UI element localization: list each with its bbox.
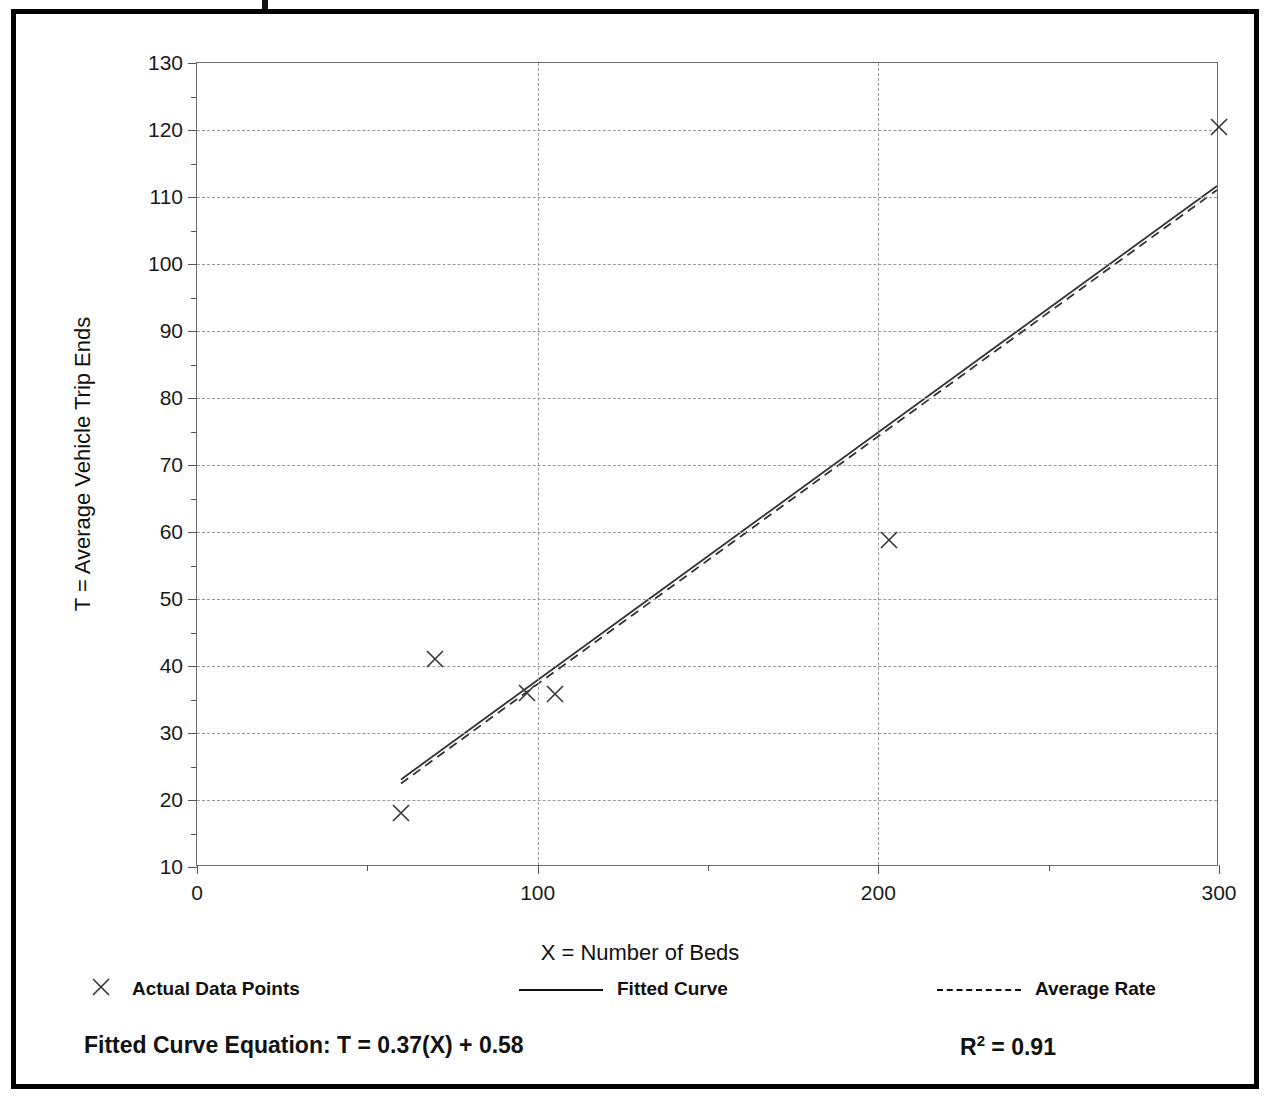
legend-item-actual-data-points[interactable]: Actual Data Points [84,978,300,1000]
y-axis-minor-tick [191,432,197,433]
y-axis-tick-label: 50 [160,587,183,611]
legend-label: Fitted Curve [617,978,728,1000]
y-axis-tick [188,867,197,868]
r-squared-number: = 0.91 [985,1034,1056,1060]
x-axis-tick [197,865,198,874]
y-axis-tick-label: 110 [150,185,183,209]
y-axis-minor-tick [191,97,197,98]
legend-item-average-rate[interactable]: Average Rate [937,978,1156,1000]
y-axis-minor-tick [191,834,197,835]
x-marker-icon [84,980,118,998]
gridline-horizontal [197,532,1217,533]
chart-footer: Fitted Curve Equation: T = 0.37(X) + 0.5… [0,1032,1271,1076]
x-axis-tick [1219,865,1220,874]
y-axis-title: T = Average Vehicle Trip Ends [70,317,96,612]
x-axis-tick-label: 300 [1201,881,1236,905]
gridline-vertical [878,63,879,865]
y-axis-tick-label: 40 [160,654,183,678]
y-axis-tick-label: 70 [160,453,183,477]
y-axis-tick [188,666,197,667]
y-axis-minor-tick [191,499,197,500]
solid-line-icon [519,980,603,998]
y-axis-tick-label: 120 [148,118,183,142]
gridline-vertical [538,63,539,865]
r-squared-prefix: R [960,1034,977,1060]
x-axis-minor-tick [367,865,368,871]
fitted-curve-equation: Fitted Curve Equation: T = 0.37(X) + 0.5… [84,1032,524,1059]
data-point-marker [544,683,566,705]
series-lines [197,63,1217,865]
data-point-marker [390,802,412,824]
gridline-horizontal [197,264,1217,265]
legend-item-fitted-curve[interactable]: Fitted Curve [519,978,728,1000]
y-axis-minor-tick [191,365,197,366]
legend-label: Average Rate [1035,978,1156,1000]
gridline-horizontal [197,733,1217,734]
x-axis-tick [538,865,539,874]
data-point-marker [516,682,538,704]
legend-label: Actual Data Points [132,978,300,1000]
y-axis-tick [188,532,197,533]
y-axis-minor-tick [191,633,197,634]
y-axis-minor-tick [191,231,197,232]
y-axis-tick [188,398,197,399]
data-point-marker [1208,116,1230,138]
y-axis-tick-label: 60 [160,520,183,544]
y-axis-tick-label: 10 [160,855,183,879]
plot-area: 1020304050607080901001101201300100200300 [196,62,1218,866]
x-axis-minor-tick [1049,865,1050,871]
y-axis-minor-tick [191,700,197,701]
r-squared-exponent: 2 [977,1032,985,1049]
r-squared-value: R2 = 0.91 [960,1032,1056,1061]
y-axis-tick-label: 90 [160,319,183,343]
y-axis-tick-label: 100 [148,252,183,276]
y-axis-tick-label: 130 [148,51,183,75]
y-axis-tick [188,197,197,198]
y-axis-tick [188,800,197,801]
y-axis-tick [188,63,197,64]
y-axis-tick [188,264,197,265]
data-point-marker [424,648,446,670]
x-axis-tick-label: 200 [861,881,896,905]
x-axis-minor-tick [708,865,709,871]
gridline-horizontal [197,130,1217,131]
x-axis-tick-label: 0 [191,881,203,905]
gridline-horizontal [197,666,1217,667]
scatter-chart: T = Average Vehicle Trip Ends X = Number… [0,0,1271,1100]
y-axis-tick [188,130,197,131]
x-axis-tick [878,865,879,874]
y-axis-minor-tick [191,566,197,567]
y-axis-tick-label: 20 [160,788,183,812]
y-axis-minor-tick [191,767,197,768]
gridline-horizontal [197,599,1217,600]
y-axis-minor-tick [191,298,197,299]
gridline-horizontal [197,800,1217,801]
x-axis-title: X = Number of Beds [541,940,740,966]
y-axis-tick-label: 30 [160,721,183,745]
gridline-horizontal [197,465,1217,466]
dashed-line-icon [937,980,1021,998]
y-axis-tick [188,733,197,734]
y-axis-tick [188,331,197,332]
y-axis-tick [188,465,197,466]
y-axis-tick [188,599,197,600]
gridline-horizontal [197,398,1217,399]
chart-legend: Actual Data Points Fitted Curve Average … [0,978,1271,1012]
data-point-marker [878,529,900,551]
y-axis-minor-tick [191,164,197,165]
gridline-horizontal [197,331,1217,332]
x-axis-tick-label: 100 [520,881,555,905]
gridline-horizontal [197,197,1217,198]
y-axis-tick-label: 80 [160,386,183,410]
